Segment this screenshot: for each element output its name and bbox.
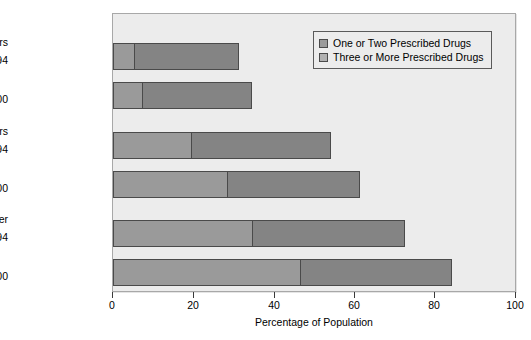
- plot-area: One or Two Prescribed Drugs Three or Mor…: [112, 13, 516, 292]
- bar-segment-one-or-two: [113, 132, 192, 159]
- legend-item-three-or-more: Three or More Prescribed Drugs: [319, 50, 484, 64]
- y-group-label-65-over: 65 years and over: [0, 213, 8, 225]
- bar-segment-one-or-two: [113, 82, 143, 109]
- y-tick-label-1999-2000-a: 1999–2000: [0, 93, 8, 105]
- x-tick-label-60: 60: [348, 299, 360, 311]
- x-tick-label-20: 20: [187, 299, 199, 311]
- bar-segment-three-or-more: [252, 220, 405, 247]
- legend-item-one-or-two: One or Two Prescribed Drugs: [319, 36, 484, 50]
- x-axis-ticks: [112, 292, 516, 299]
- bar-segment-one-or-two: [113, 259, 301, 286]
- x-tick-label-80: 80: [428, 299, 440, 311]
- bar-segment-one-or-two: [113, 43, 135, 70]
- bar-segment-one-or-two: [113, 220, 253, 247]
- y-group-label-45-64: 45–64 years: [0, 125, 8, 137]
- x-tick-60: [354, 292, 355, 298]
- y-tick-label-1988-94-b: 1988–94: [0, 143, 8, 155]
- y-group-label-18-44: 18–44 years: [0, 36, 8, 48]
- legend-label-one-or-two: One or Two Prescribed Drugs: [333, 37, 471, 49]
- legend-swatch-three-or-more: [319, 53, 328, 62]
- bar-segment-three-or-more: [300, 259, 452, 286]
- bar-segment-three-or-more: [227, 171, 360, 198]
- legend: One or Two Prescribed Drugs Three or Mor…: [313, 31, 492, 69]
- legend-label-three-or-more: Three or More Prescribed Drugs: [333, 51, 484, 63]
- y-tick-label-1999-2000-b: 1999–2000: [0, 182, 8, 194]
- x-tick-label-0: 0: [109, 299, 115, 311]
- x-tick-0: [112, 292, 113, 298]
- chart-figure: One or Two Prescribed Drugs Three or Mor…: [0, 0, 531, 340]
- y-tick-label-1988-94-a: 1988–94: [0, 54, 8, 66]
- y-tick-label-1999-2000-c: 1999–2000: [0, 270, 8, 282]
- x-tick-40: [274, 292, 275, 298]
- bar-segment-one-or-two: [113, 171, 228, 198]
- x-axis-title: Percentage of Population: [112, 316, 516, 328]
- legend-swatch-one-or-two: [319, 39, 328, 48]
- x-tick-20: [193, 292, 194, 298]
- bar-segment-three-or-more: [134, 43, 239, 70]
- x-tick-label-100: 100: [506, 299, 524, 311]
- plot-inner: One or Two Prescribed Drugs Three or Mor…: [113, 14, 515, 291]
- bar-segment-three-or-more: [191, 132, 331, 159]
- x-tick-80: [434, 292, 435, 298]
- x-tick-label-40: 40: [268, 299, 280, 311]
- x-tick-100: [515, 292, 516, 298]
- bar-segment-three-or-more: [142, 82, 252, 109]
- y-tick-label-1988-94-c: 1988–94: [0, 231, 8, 243]
